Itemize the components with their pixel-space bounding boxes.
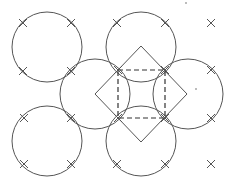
cross-marker-icon	[19, 67, 27, 75]
dot-mark	[195, 88, 197, 90]
cross-marker-icon	[113, 19, 121, 27]
diagram-canvas	[0, 0, 232, 187]
cross-marker-icon	[19, 19, 27, 27]
circles-group	[12, 12, 223, 176]
crosses-group	[19, 19, 215, 168]
dot-mark	[185, 2, 187, 4]
dots-group	[185, 2, 197, 90]
diagram-svg	[0, 0, 232, 187]
cross-marker-icon	[207, 160, 215, 168]
cross-marker-icon	[161, 19, 169, 27]
cross-marker-icon	[207, 19, 215, 27]
cross-marker-icon	[67, 19, 75, 27]
